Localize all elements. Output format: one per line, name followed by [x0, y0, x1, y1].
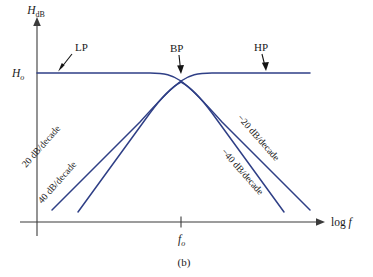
callout-label-bp: BP	[170, 42, 183, 54]
callout-pointers-group	[58, 54, 269, 74]
slope-label-hp-neg40: −40 dB/decade	[220, 146, 267, 197]
y-axis-label: HdB	[26, 4, 45, 19]
x-axis-label: log f	[331, 216, 354, 229]
slope-label-bp-40: 40 dB/decade	[35, 159, 78, 206]
curve-high-pass	[52, 73, 310, 210]
y-tick-label-h0-sub: o	[20, 73, 24, 82]
y-tick-label-h0: Ho	[11, 67, 24, 82]
x-axis-label-prefix: log	[331, 216, 349, 229]
bp-pointer-head	[177, 65, 184, 74]
x-axis-arrowhead	[316, 218, 325, 226]
slope-label-lp-20: 20 dB/decade	[19, 123, 62, 170]
figure-caption: (b)	[178, 256, 191, 269]
x-tick-label-f0-sub: o	[181, 239, 185, 248]
labels-group: HdB Ho fo log f LP BP HP 20 dB/decade 40…	[11, 4, 354, 269]
hp-pointer-head	[262, 62, 269, 71]
bode-plot-figure: HdB Ho fo log f LP BP HP 20 dB/decade 40…	[0, 0, 373, 277]
x-tick-label-f0: fo	[178, 233, 185, 248]
curve-band-pass	[78, 82, 284, 212]
y-axis-label-sub: dB	[35, 10, 44, 19]
x-axis-label-var: f	[349, 216, 354, 229]
callout-label-hp: HP	[254, 41, 268, 53]
callout-label-lp: LP	[75, 41, 88, 53]
bode-plot-svg: HdB Ho fo log f LP BP HP 20 dB/decade 40…	[0, 0, 373, 277]
